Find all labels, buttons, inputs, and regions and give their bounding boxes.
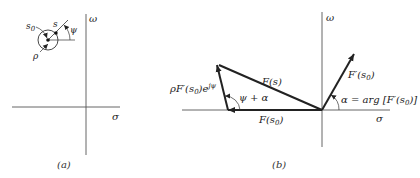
rho-Fprime-sup: jψ <box>208 82 216 90</box>
point-s0 <box>46 38 50 42</box>
rho-label: ρ <box>33 52 38 61</box>
psi-alpha-label: ψ + α <box>239 93 268 103</box>
Fprime-s0-label: F′(s0) <box>348 70 375 82</box>
Fs0-suffix: ) <box>279 114 283 125</box>
rho-pointer <box>40 44 48 52</box>
rho-Fprime-prefix: ρF′(s <box>170 83 194 94</box>
omega-label-a: ω <box>89 14 97 24</box>
s0-label: s0 <box>26 22 35 33</box>
s0-label-sub: 0 <box>31 25 35 33</box>
rho-Fprime-mid: )e <box>199 83 209 94</box>
alpha-eq-suffix: )] <box>409 94 417 105</box>
sigma-label-a: σ <box>112 112 119 122</box>
rho-Fprime-label: ρF′(s0)ejψ <box>170 83 216 96</box>
vector-F-s <box>219 65 322 110</box>
alpha-eq-prefix: α = arg [F′(s <box>341 94 405 105</box>
Fs0-label: F(s0) <box>259 115 283 127</box>
Fs0-prefix: F(s <box>259 114 275 125</box>
Fprime-suffix: ) <box>371 69 375 80</box>
psi-label: ψ <box>70 26 77 35</box>
caption-b: (b) <box>272 160 286 170</box>
Fprime-prefix: F′(s <box>348 69 366 80</box>
vector-rho-Fprime <box>217 65 228 110</box>
caption-a: (a) <box>57 160 71 170</box>
s-label: s <box>53 20 58 29</box>
panel-a <box>12 14 120 155</box>
alpha-eq-label: α = arg [F′(s0)] <box>341 95 417 107</box>
Fs-label: F(s) <box>262 77 282 87</box>
alpha-arc <box>331 95 339 110</box>
sigma-label-b: σ <box>376 114 383 124</box>
omega-label-b: ω <box>326 13 334 23</box>
point-s <box>55 32 58 35</box>
